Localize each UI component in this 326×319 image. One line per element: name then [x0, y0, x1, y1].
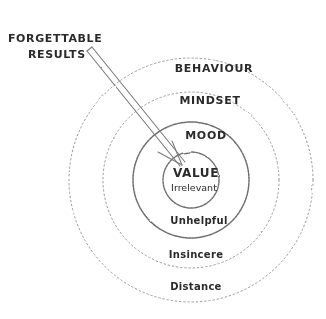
ring-label-unhelpful: Unhelpful — [170, 215, 227, 226]
arrow-tail-cap — [87, 47, 92, 51]
ring-label-mindset: MINDSET — [179, 94, 240, 107]
ring-label-behaviour: BEHAVIOUR — [175, 62, 254, 75]
callout-line-2: RESULTS — [28, 48, 86, 61]
ring-label-mood: MOOD — [185, 129, 227, 142]
ring-label-value: VALUE — [173, 166, 219, 180]
ring-circle-value — [163, 152, 219, 208]
arrow-shaft-line-a — [87, 51, 180, 166]
ring-lower-labels-group: Unhelpful Insincere Distance — [169, 215, 228, 292]
concentric-ring-diagram: FORGETTABLE RESULTS BEHAVIOUR MINDSET MO… — [0, 0, 326, 319]
ring-label-distance: Distance — [170, 281, 221, 292]
diagram-canvas: FORGETTABLE RESULTS BEHAVIOUR MINDSET MO… — [0, 0, 326, 319]
ring-upper-labels-group: BEHAVIOUR MINDSET MOOD — [175, 62, 254, 142]
ring-label-insincere: Insincere — [169, 249, 223, 260]
ring-circle-mindset — [103, 92, 279, 268]
callout-line-1: FORGETTABLE — [8, 32, 102, 45]
arrowhead-barb-right — [172, 141, 182, 165]
callout-text-group: FORGETTABLE RESULTS — [8, 32, 102, 61]
core-labels-group: VALUE Irrelevant — [171, 166, 219, 193]
arrow-shaft-line-b — [92, 47, 185, 162]
ring-label-irrelevant: Irrelevant — [171, 182, 217, 193]
callout-arrow — [87, 47, 185, 166]
